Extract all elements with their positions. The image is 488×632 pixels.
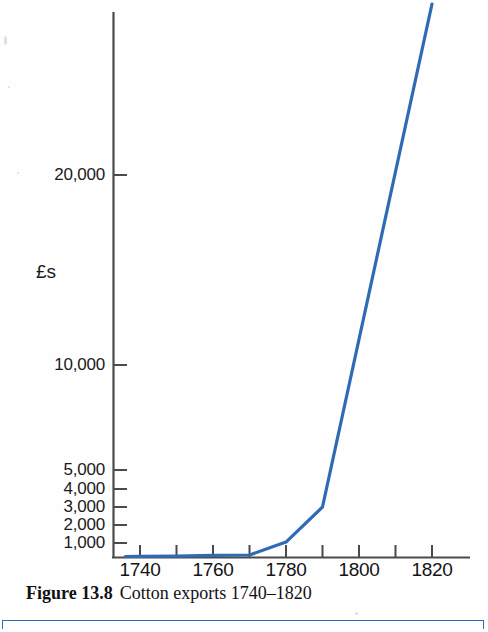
y-axis-ticks	[113, 175, 127, 543]
y-axis-title: £s	[36, 262, 56, 281]
y-tick-label-10000: 10,000	[54, 356, 105, 373]
x-tick-label-1760: 1760	[192, 560, 233, 579]
x-tick-label-1740: 1740	[119, 560, 160, 579]
scan-speckle	[8, 86, 10, 88]
scan-speckle	[17, 172, 19, 174]
data-series-cotton-exports	[125, 4, 432, 557]
x-tick-label-1800: 1800	[338, 560, 379, 579]
figure-container: 20,000 10,000 5,000 4,000 3,000 2,000 1,…	[0, 0, 488, 632]
y-tick-label-1000: 1,000	[63, 534, 105, 551]
y-tick-label-2000: 2,000	[63, 516, 105, 533]
scan-speckle	[355, 612, 358, 615]
y-axis-tick-label-group: 20,000 10,000 5,000 4,000 3,000 2,000 1,…	[0, 0, 105, 570]
y-tick-label-4000: 4,000	[63, 480, 105, 497]
y-tick-label-3000: 3,000	[63, 498, 105, 515]
scan-speckle	[4, 36, 7, 45]
y-tick-label-5000: 5,000	[63, 461, 105, 478]
figure-caption-label: Figure 13.8	[26, 583, 113, 603]
x-tick-label-1820: 1820	[411, 560, 452, 579]
y-tick-label-20000: 20,000	[54, 166, 105, 183]
page-bottom-rule	[2, 620, 484, 629]
chart-plot-area: 20,000 10,000 5,000 4,000 3,000 2,000 1,…	[0, 0, 488, 570]
x-tick-label-1780: 1780	[265, 560, 306, 579]
figure-caption: Figure 13.8Cotton exports 1740–1820	[26, 584, 466, 604]
figure-caption-text: Cotton exports 1740–1820	[120, 583, 312, 603]
